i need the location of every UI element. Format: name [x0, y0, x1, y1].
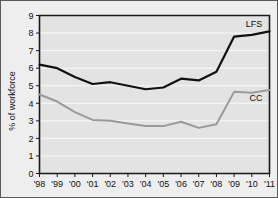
x-tick-label-4: '02 — [104, 179, 116, 189]
x-tick-label-5: '03 — [122, 179, 134, 189]
x-tick-label-10: '08 — [211, 179, 223, 189]
y-tick-label-6: 6 — [28, 63, 33, 73]
line-chart: 0123456789 '98'99'00'01'02'03'04'05'06'0… — [1, 1, 278, 198]
y-tick-label-8: 8 — [28, 28, 33, 38]
x-axis-ticks: '98'99'00'01'02'03'04'05'06'07'08'09'10'… — [34, 174, 275, 189]
x-tick-label-1: '99 — [51, 179, 63, 189]
y-tick-label-3: 3 — [28, 116, 33, 126]
series-label-lfs: LFS — [246, 19, 263, 29]
x-tick-label-9: '07 — [193, 179, 205, 189]
y-axis-ticks: 0123456789 — [28, 11, 39, 179]
x-tick-label-13: '11 — [264, 179, 275, 189]
y-tick-label-0: 0 — [28, 169, 33, 179]
chart-figure: 0123456789 '98'99'00'01'02'03'04'05'06'0… — [0, 0, 278, 198]
x-tick-label-11: '09 — [228, 179, 240, 189]
series-label-cc: CC — [250, 93, 263, 103]
plot-background-rect — [40, 16, 270, 174]
plot-area-background — [40, 16, 270, 174]
y-tick-label-9: 9 — [28, 11, 33, 21]
y-axis-title: % of workforce — [7, 71, 17, 131]
x-tick-label-8: '06 — [175, 179, 187, 189]
y-tick-label-5: 5 — [28, 81, 33, 91]
y-tick-label-2: 2 — [28, 134, 33, 144]
y-tick-label-4: 4 — [28, 99, 33, 109]
x-tick-label-7: '05 — [157, 179, 169, 189]
x-tick-label-0: '98 — [34, 179, 46, 189]
x-tick-label-3: '01 — [87, 179, 99, 189]
y-tick-label-7: 7 — [28, 46, 33, 56]
y-tick-label-1: 1 — [28, 151, 33, 161]
x-tick-label-6: '04 — [140, 179, 152, 189]
x-tick-label-2: '00 — [69, 179, 81, 189]
x-tick-label-12: '10 — [246, 179, 258, 189]
